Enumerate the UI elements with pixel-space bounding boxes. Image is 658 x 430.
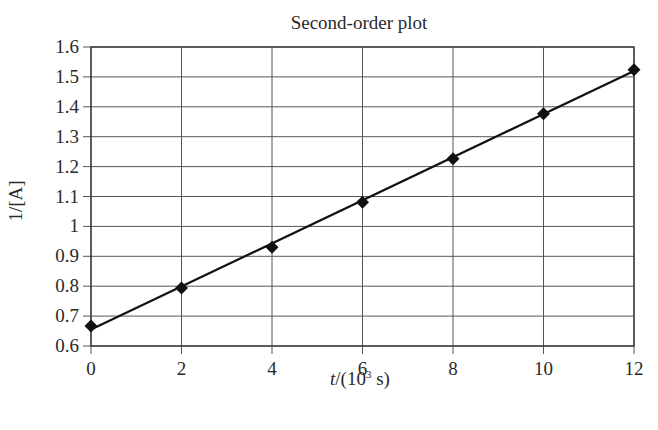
y-tick-label: 1 <box>70 215 80 236</box>
y-tick-label: 1.3 <box>55 126 79 147</box>
y-tick-label: 1.2 <box>55 156 79 177</box>
y-tick-label: 0.8 <box>55 275 79 296</box>
x-tick-label: 2 <box>177 358 187 379</box>
diamond-marker <box>85 319 98 332</box>
y-tick-label: 1.6 <box>55 36 79 57</box>
x-tick-label: 12 <box>625 358 644 379</box>
diamond-marker <box>266 241 279 254</box>
y-tick-label: 1.1 <box>55 186 79 207</box>
x-tick-label: 10 <box>534 358 553 379</box>
plot-area: 0.60.70.80.911.11.21.31.41.51.6024681012 <box>0 0 658 430</box>
x-tick-label: 8 <box>448 358 458 379</box>
chart: Second-order plot 1/[A] t/(103 s) 0.60.7… <box>0 0 658 430</box>
diamond-marker <box>537 107 550 120</box>
y-tick-label: 1.5 <box>55 66 79 87</box>
x-tick-label: 0 <box>86 358 96 379</box>
x-tick-label: 6 <box>358 358 368 379</box>
y-tick-label: 0.7 <box>55 305 79 326</box>
y-tick-label: 0.6 <box>55 335 79 356</box>
y-tick-label: 0.9 <box>55 245 79 266</box>
x-tick-label: 4 <box>267 358 277 379</box>
y-tick-label: 1.4 <box>55 96 79 117</box>
